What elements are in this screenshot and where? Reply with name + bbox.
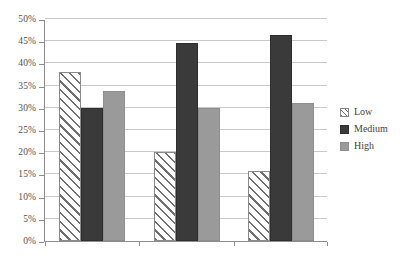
- legend-item-medium[interactable]: Medium: [340, 121, 400, 137]
- y-axis-tick-label: 5%: [23, 215, 36, 225]
- legend-swatch-low-icon: [340, 108, 349, 117]
- bar-white-high: [103, 91, 125, 241]
- bar-hispanic-low: [248, 171, 270, 241]
- legend-label-low: Low: [354, 107, 372, 117]
- legend-swatch-high-icon: [340, 142, 349, 151]
- bar-chart: 0%5%10%15%20%25%30%35%40%45%50% WhiteBla…: [0, 0, 400, 266]
- y-axis-tick-label: 10%: [18, 193, 36, 203]
- legend-item-high[interactable]: High: [340, 138, 400, 154]
- y-axis-tick-label: 0%: [23, 237, 36, 247]
- y-axis-tick-label: 25%: [18, 126, 36, 136]
- y-axis-tick-label: 45%: [18, 37, 36, 47]
- x-axis-tick-mark: [327, 242, 328, 246]
- x-axis-tick-mark: [139, 242, 140, 246]
- x-axis-tick-mark: [45, 242, 46, 246]
- bar-hispanic-high: [292, 103, 314, 241]
- y-axis-tick-label: 50%: [18, 15, 36, 25]
- y-axis-tick-label: 35%: [18, 82, 36, 92]
- bar-black-low: [154, 152, 176, 241]
- gridline: [45, 18, 327, 19]
- legend-item-low[interactable]: Low: [340, 104, 400, 120]
- legend-swatch-medium-icon: [340, 125, 349, 134]
- y-axis-tick-label: 40%: [18, 59, 36, 69]
- bar-hispanic-medium: [270, 35, 292, 241]
- y-axis-tick-label: 30%: [18, 104, 36, 114]
- x-axis-tick-mark: [234, 242, 235, 246]
- bar-white-medium: [81, 108, 103, 241]
- bar-black-medium: [176, 43, 198, 241]
- bar-white-low: [59, 72, 81, 241]
- plot-area: WhiteBlackHispanic: [44, 20, 327, 242]
- legend: LowMediumHigh: [340, 104, 400, 155]
- bar-black-high: [198, 108, 220, 241]
- y-axis-tick-mark: [39, 242, 44, 243]
- y-axis-tick-label: 15%: [18, 170, 36, 180]
- legend-label-medium: Medium: [354, 124, 388, 134]
- y-axis-tick-label: 20%: [18, 148, 36, 158]
- legend-label-high: High: [354, 141, 374, 151]
